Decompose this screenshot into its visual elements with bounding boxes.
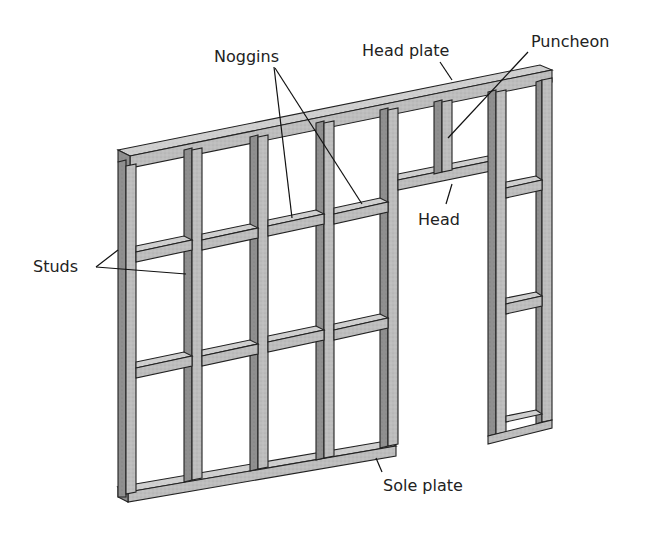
stud-4	[316, 121, 334, 460]
label-head-plate: Head plate	[362, 41, 449, 60]
stud-1	[118, 160, 136, 497]
stud-6-door-jamb-right	[488, 90, 506, 436]
stud-wall-diagram: Head plate Puncheon Noggins Head Studs S…	[0, 0, 657, 534]
stud-5-door-jamb-left	[380, 108, 398, 448]
label-noggins: Noggins	[214, 47, 279, 66]
label-sole-plate: Sole plate	[383, 476, 463, 495]
stud-3	[250, 135, 268, 471]
label-studs: Studs	[33, 257, 78, 276]
stud-7-end	[536, 78, 552, 424]
head-plate	[118, 65, 552, 168]
stud-2	[184, 148, 202, 482]
label-puncheon: Puncheon	[531, 32, 609, 51]
label-head: Head	[418, 210, 460, 229]
